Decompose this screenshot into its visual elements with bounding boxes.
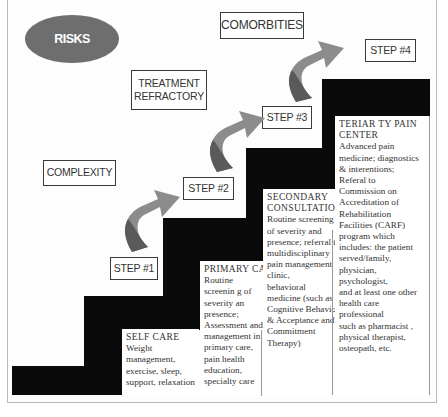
level-line: Commitment <box>267 326 330 337</box>
step-2-label: STEP #2 <box>183 177 234 200</box>
level-line: & Acceptance and <box>267 315 330 326</box>
level-line: & interentions; <box>339 164 427 175</box>
level-line: professional <box>339 309 427 320</box>
level-line: management in <box>204 331 259 342</box>
level-line: of severity and <box>267 226 330 237</box>
level-line: multidisciplinary <box>267 248 330 259</box>
level-line: medicine; diagnostics <box>339 153 427 164</box>
level-line: education, <box>204 365 259 376</box>
level-self-care: SELF CARE Weight management, exercise, s… <box>122 329 199 395</box>
level-line: medicine (such as <box>267 293 330 304</box>
level-line: severity an <box>204 298 259 309</box>
curved-arrow-icon <box>284 38 354 108</box>
level-secondary-consultation: SECONDARY CONSULTATION Routine screening… <box>263 189 333 395</box>
level-line: pain management <box>267 259 330 270</box>
level-line: Cognitive Behavioral <box>267 304 330 315</box>
level-line: physician, <box>339 265 427 276</box>
level-line: Therapy) <box>267 338 330 349</box>
factor-line: REFRACTORY <box>134 90 204 103</box>
level-title: PRIMARY CARE <box>204 264 259 275</box>
factor-treatment-refractory: TREATMENT REFRACTORY <box>131 70 207 110</box>
column-divider <box>261 330 262 396</box>
level-line: exercise, sleep, <box>126 366 196 377</box>
level-line: pain health <box>204 354 259 365</box>
factor-line: TREATMENT <box>138 77 200 90</box>
level-line: physical therapist, <box>339 332 427 343</box>
level-line: Facilities (CARF) <box>339 220 427 231</box>
column-divider <box>332 230 333 395</box>
level-line: health care <box>339 298 427 309</box>
curved-arrow-icon <box>120 185 190 255</box>
level-title: CENTER <box>339 130 427 141</box>
level-line: presence; <box>204 309 259 320</box>
level-line: program which <box>339 231 427 242</box>
level-line: Assessment and <box>204 320 259 331</box>
level-line: primary care, <box>204 342 259 353</box>
level-line: support, relaxation <box>126 377 196 388</box>
level-line: and at least one other <box>339 287 427 298</box>
level-line: includes: the patient <box>339 242 427 253</box>
level-line: such as pharmacist , <box>339 321 427 332</box>
level-line: Advanced pain <box>339 141 427 152</box>
step-4-label: STEP #4 <box>365 39 416 62</box>
level-line: Accreditation of <box>339 197 427 208</box>
level-tertiary-pain-center: TERIAR TY PAIN CENTER Advanced pain medi… <box>335 116 430 395</box>
level-title: SECONDARY <box>267 192 330 203</box>
level-line: Rehabilitation <box>339 209 427 220</box>
level-line: Referal to <box>339 175 427 186</box>
level-title: TERIAR TY PAIN <box>339 119 427 130</box>
level-title: SELF CARE <box>126 332 196 343</box>
level-line: Weight management, <box>126 343 196 365</box>
level-line: served/family, <box>339 253 427 264</box>
level-line: Commission on <box>339 186 427 197</box>
column-divider <box>429 116 430 395</box>
level-line: psychologist, <box>339 276 427 287</box>
level-line: osteopath, etc. <box>339 343 427 354</box>
level-line: clinic, behavioral <box>267 270 330 292</box>
step-1-label: STEP #1 <box>110 257 158 280</box>
level-line: presence; referral to <box>267 237 330 248</box>
level-primary-care: PRIMARY CARE Routine screenin g of sever… <box>200 261 262 395</box>
curved-arrow-icon <box>205 108 275 178</box>
level-line: Routine <box>204 275 259 286</box>
level-line: Routine screening <box>267 214 330 225</box>
factor-complexity: COMPLEXITY <box>43 160 116 186</box>
risks-badge: RISKS <box>25 15 119 63</box>
level-title: CONSULTATION <box>267 203 330 214</box>
level-line: specialty care <box>204 376 259 387</box>
level-line: screenin g of <box>204 286 259 297</box>
factor-comorbities: COMORBITIES <box>220 12 304 39</box>
